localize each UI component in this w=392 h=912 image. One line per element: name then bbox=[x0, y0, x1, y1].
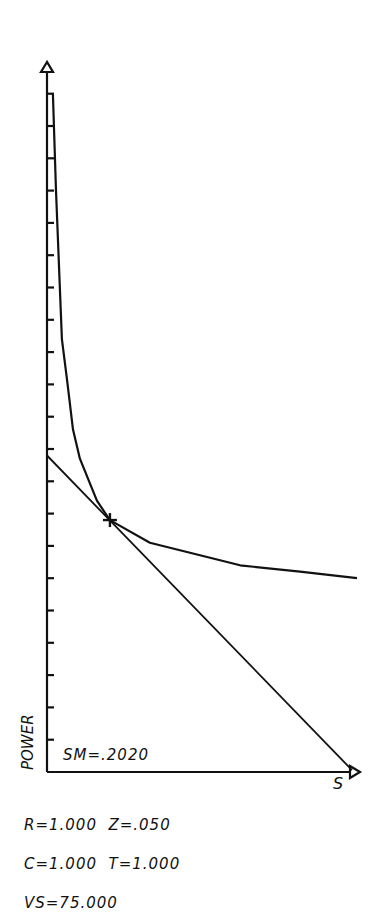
x-axis-label: S bbox=[333, 774, 343, 793]
power-curve bbox=[53, 94, 357, 579]
y-axis-arrow-icon bbox=[41, 62, 53, 72]
axes bbox=[41, 62, 360, 778]
param-line-2: C=1.000 T=1.000 bbox=[24, 858, 180, 871]
param-line-3: VS=75.000 bbox=[24, 897, 180, 910]
sm-label: SM=.2020 bbox=[63, 746, 149, 764]
y-ticks bbox=[47, 94, 54, 740]
x-axis-arrow-icon bbox=[350, 766, 360, 778]
y-axis-label: POWER bbox=[19, 714, 37, 770]
param-line-1: R=1.000 Z=.050 bbox=[24, 819, 180, 832]
parameters-block: R=1.000 Z=.050 C=1.000 T=1.000 VS=75.000 bbox=[24, 793, 180, 912]
tangent-line bbox=[47, 456, 352, 771]
